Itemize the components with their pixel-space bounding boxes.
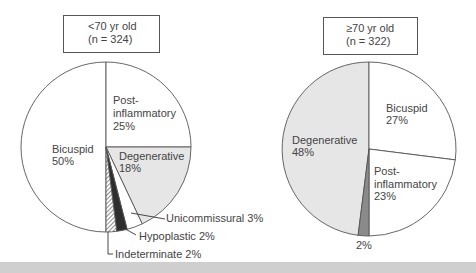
svg-text:Bicuspid: Bicuspid xyxy=(52,143,94,155)
left-indeterminate-label: Indeterminate 2% xyxy=(115,248,201,260)
leader-indeterminate xyxy=(108,232,113,254)
svg-text:Degenerative: Degenerative xyxy=(292,134,357,146)
left-unicommissural-label: Unicommissural 3% xyxy=(166,212,263,224)
svg-text:2%: 2% xyxy=(356,239,372,251)
left-post-pct: 25% xyxy=(113,120,135,132)
left-degen-pct: 18% xyxy=(119,162,141,174)
left-bicuspid-label: Bicuspid xyxy=(52,143,94,155)
svg-text:Unicommissural 3%: Unicommissural 3% xyxy=(166,212,263,224)
bottom-band xyxy=(0,262,476,273)
right-bicuspid-pct: 27% xyxy=(386,114,408,126)
right-post-pct: 23% xyxy=(374,190,396,202)
right-bicuspid-label: Bicuspid xyxy=(386,102,428,114)
svg-text:50%: 50% xyxy=(52,155,74,167)
svg-text:Post-: Post- xyxy=(374,165,400,177)
svg-text:Degenerative: Degenerative xyxy=(119,150,184,162)
svg-text:Hypoplastic 2%: Hypoplastic 2% xyxy=(139,230,215,242)
svg-text:18%: 18% xyxy=(119,162,141,174)
svg-text:27%: 27% xyxy=(386,114,408,126)
pie-charts: Post- inflammatory 25% Degenerative 18% … xyxy=(0,0,476,273)
svg-text:25%: 25% xyxy=(113,120,135,132)
right-degen-pct: 48% xyxy=(292,146,314,158)
svg-text:Post-: Post- xyxy=(113,94,139,106)
svg-text:Bicuspid: Bicuspid xyxy=(386,102,428,114)
left-post-line2: inflammatory xyxy=(113,107,176,119)
left-degen-label: Degenerative xyxy=(119,150,184,162)
svg-text:Indeterminate 2%: Indeterminate 2% xyxy=(115,248,201,260)
left-bicuspid-pct: 50% xyxy=(52,155,74,167)
right-post-line1: Post- xyxy=(374,165,400,177)
right-degen-label: Degenerative xyxy=(292,134,357,146)
svg-text:inflammatory: inflammatory xyxy=(113,107,176,119)
svg-text:48%: 48% xyxy=(292,146,314,158)
right-post-line2: inflammatory xyxy=(374,178,437,190)
svg-text:inflammatory: inflammatory xyxy=(374,178,437,190)
svg-text:23%: 23% xyxy=(374,190,396,202)
left-post-line1: Post- xyxy=(113,94,139,106)
left-pie xyxy=(21,62,191,232)
right-small-pct: 2% xyxy=(356,239,372,251)
left-hypoplastic-label: Hypoplastic 2% xyxy=(139,230,215,242)
